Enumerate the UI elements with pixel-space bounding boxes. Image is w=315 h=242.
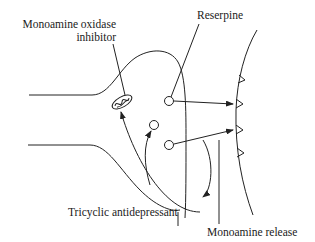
receptor-icon <box>236 99 243 108</box>
mao-inhibitor-label-line2: inhibitor <box>12 31 116 44</box>
receptor-icon <box>236 125 243 134</box>
reserpine-label: Reserpine <box>197 9 243 22</box>
mitochondrion-icon <box>110 92 134 112</box>
reuptake-arrow-to-mitochondrion <box>121 112 200 212</box>
presynaptic-membrane-bottom <box>28 145 180 210</box>
vesicle-icon <box>150 121 159 130</box>
reuptake-loop <box>203 140 211 197</box>
mao-inhibitor-label: Monoamine oxidase inhibitor <box>12 18 116 44</box>
mao-inhibitor-label-line1: Monoamine oxidase <box>12 18 116 31</box>
presynaptic-membrane-top <box>29 51 186 218</box>
monoamine-release-label: Monoamine release <box>207 226 297 239</box>
release-arrow-bottom <box>174 130 233 144</box>
tricyclic-label: Tricyclic antidepressant <box>68 206 178 219</box>
vesicle-icon <box>165 97 174 106</box>
reserpine-leader <box>171 24 199 97</box>
postsynaptic-membrane <box>236 30 257 215</box>
vesicle-icon <box>165 141 174 150</box>
release-arrow-top <box>174 101 233 104</box>
